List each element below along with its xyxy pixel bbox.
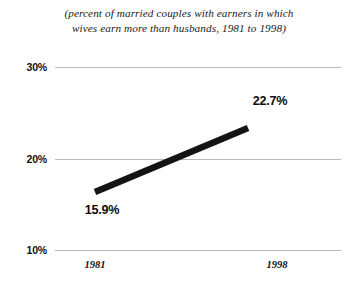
data-series-line xyxy=(0,0,353,286)
xtick-label-1981: 1981 xyxy=(60,259,130,270)
gridline-20 xyxy=(55,159,341,160)
ytick-label-20: 20% xyxy=(0,153,47,165)
plot-area: 30% 20% 10% 15.9% 22.7% 1981 1998 xyxy=(0,0,353,286)
data-label-1998: 22.7% xyxy=(230,94,310,108)
chart-container: (percent of married couples with earners… xyxy=(0,0,353,286)
ytick-label-10: 10% xyxy=(0,244,47,256)
xtick-label-1998: 1998 xyxy=(242,259,312,270)
gridline-30 xyxy=(55,67,341,68)
ytick-label-30: 30% xyxy=(0,61,47,73)
gridline-10 xyxy=(55,250,341,251)
data-label-1981: 15.9% xyxy=(62,203,142,217)
